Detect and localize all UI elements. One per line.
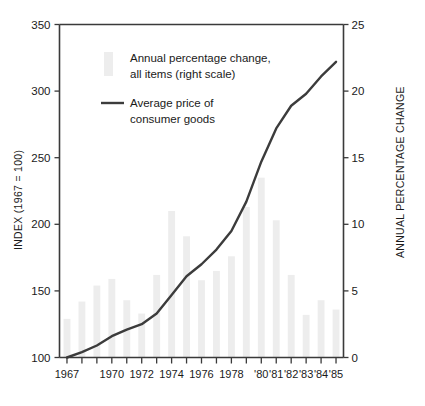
legend-label-line-line2: consumer goods — [130, 113, 215, 125]
bar-1983 — [303, 315, 310, 358]
x-tick-label-1983: '83 — [299, 368, 313, 380]
y-left-tick-label-100: 100 — [31, 352, 50, 364]
bar-1967 — [64, 319, 71, 358]
x-tick-label-1984: '84 — [314, 368, 328, 380]
bar-1981 — [273, 220, 280, 357]
bar-1976 — [198, 280, 205, 357]
chart-container: 100150200250300350 0510152025 1967197019… — [0, 0, 425, 406]
x-tick-label-1985: '85 — [329, 368, 343, 380]
x-tick-label-1981: '81 — [269, 368, 283, 380]
legend-label-line-line1: Average price of — [130, 97, 214, 109]
y-left-tick-label-250: 250 — [31, 152, 50, 164]
legend-swatch-bar — [104, 52, 113, 76]
bar-1974 — [168, 211, 175, 358]
y-right-tick-label-10: 10 — [352, 218, 365, 230]
y-axis-right-title: ANNUAL PERCENTAGE CHANGE — [394, 86, 406, 258]
x-tick-label-1982: '82 — [284, 368, 298, 380]
bar-1970 — [108, 279, 115, 358]
y-left-tick-label-200: 200 — [31, 218, 50, 230]
x-tick-label-1978: 1978 — [219, 368, 243, 380]
y-right-tick-label-20: 20 — [352, 85, 365, 97]
y-right-tick-label-15: 15 — [352, 152, 365, 164]
bar-1978 — [228, 256, 235, 357]
consumer-price-index-chart: 100150200250300350 0510152025 1967197019… — [0, 0, 425, 406]
bar-1980 — [258, 178, 265, 358]
x-tick-label-1972: 1972 — [129, 368, 153, 380]
x-tick-label-1974: 1974 — [159, 368, 183, 380]
bar-1968 — [78, 302, 85, 358]
bar-1985 — [333, 310, 340, 358]
x-tick-label-1967: 1967 — [55, 368, 79, 380]
y-right-tick-label-0: 0 — [352, 352, 358, 364]
x-tick-label-1970: 1970 — [100, 368, 124, 380]
bar-1972 — [138, 314, 145, 358]
legend-label-bar-line1: Annual percentage change, — [130, 52, 271, 64]
legend-label-bar-line2: all items (right scale) — [130, 68, 236, 80]
x-tick-label-1976: 1976 — [189, 368, 213, 380]
bar-1979 — [243, 207, 250, 358]
y-right-tick-label-25: 25 — [352, 19, 365, 31]
y-axis-left-title: INDEX (1967 = 100) — [12, 150, 24, 250]
x-tick-label-1980: '80 — [254, 368, 268, 380]
y-left-tick-label-350: 350 — [31, 19, 50, 31]
bar-1977 — [213, 271, 220, 358]
y-right-tick-label-5: 5 — [352, 285, 358, 297]
bar-1975 — [183, 236, 190, 357]
y-left-tick-label-150: 150 — [31, 285, 50, 297]
bar-1984 — [318, 300, 325, 357]
bar-1982 — [288, 275, 295, 358]
y-left-tick-label-300: 300 — [31, 85, 50, 97]
